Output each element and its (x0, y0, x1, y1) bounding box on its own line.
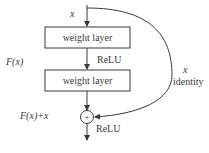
input-label: x (69, 8, 75, 19)
relu-label-2: ReLU (96, 123, 121, 134)
weight-layer-2: weight layer (45, 70, 130, 91)
weight-layer-1: weight layer (45, 27, 130, 48)
figure-caption-cropped (36, 148, 166, 153)
shortcut-type-label: identity (173, 76, 204, 87)
weight-layer-1-label: weight layer (63, 32, 113, 43)
weight-layer-2-label: weight layer (63, 75, 113, 86)
shortcut-var-label: x (182, 64, 188, 75)
relu-label-1: ReLU (97, 54, 122, 65)
plus-icon: + (85, 113, 90, 122)
sum-node: + (81, 111, 94, 124)
sum-label: F(x)+x (19, 110, 49, 122)
function-label: F(x) (5, 56, 24, 68)
residual-block-diagram: x weight layer ReLU F(x) weight layer F(… (0, 0, 209, 153)
